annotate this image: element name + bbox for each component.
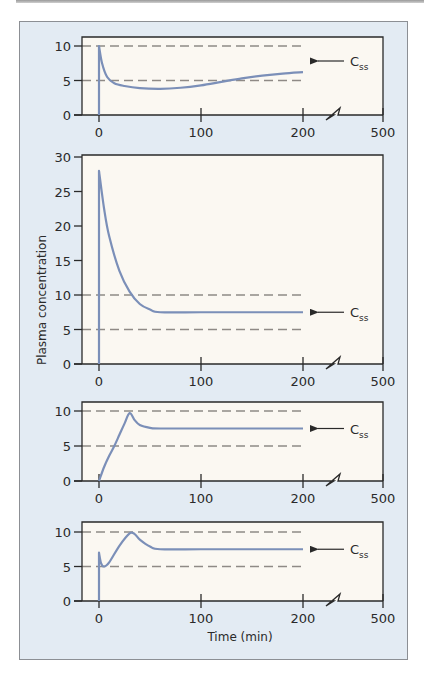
plot-area: [82, 37, 383, 115]
y-tick-label: 0: [63, 357, 71, 372]
x-tick-label: 100: [189, 491, 214, 506]
y-tick-label: 5: [63, 560, 71, 575]
y-tick-label: 0: [63, 594, 71, 609]
y-tick-label: 15: [54, 254, 71, 269]
x-tick-label: 100: [189, 125, 214, 140]
x-tick-label: 500: [371, 374, 396, 389]
y-tick-label: 5: [63, 74, 71, 89]
y-tick-label: 10: [54, 525, 71, 540]
x-axis-label: Time (min): [206, 630, 272, 644]
x-tick-label: 0: [95, 374, 103, 389]
y-tick-label: 25: [54, 185, 71, 200]
chart-panel-4: 05100100200500Css: [54, 522, 395, 626]
y-axis-label: Plasma concentration: [35, 235, 49, 365]
x-tick-label: 500: [371, 125, 396, 140]
chart-panel-1: 05100100200500Css: [54, 37, 395, 140]
y-tick-label: 5: [63, 439, 71, 454]
plot-area: [82, 402, 383, 481]
x-tick-label: 500: [371, 611, 396, 626]
x-tick-label: 200: [291, 611, 316, 626]
plot-area: [82, 522, 383, 601]
x-tick-label: 100: [189, 611, 214, 626]
x-tick-label: 0: [95, 491, 103, 506]
chart-panel-2: 0510152025300100200500Css: [54, 150, 395, 389]
plot-area: [82, 155, 383, 364]
y-tick-label: 10: [54, 39, 71, 54]
y-tick-label: 0: [63, 474, 71, 489]
y-tick-label: 10: [54, 288, 71, 303]
x-tick-label: 0: [95, 611, 103, 626]
chart-panel-3: 05100100200500Css: [54, 402, 395, 506]
y-tick-label: 10: [54, 404, 71, 419]
x-tick-label: 200: [291, 374, 316, 389]
figure-svg: 05100100200500Css0510152025300100200500C…: [0, 0, 424, 680]
y-tick-label: 20: [54, 219, 71, 234]
y-tick-label: 30: [54, 150, 71, 165]
x-tick-label: 0: [95, 125, 103, 140]
x-tick-label: 100: [189, 374, 214, 389]
x-tick-label: 200: [291, 491, 316, 506]
y-tick-label: 0: [63, 108, 71, 123]
x-tick-label: 200: [291, 125, 316, 140]
x-tick-label: 500: [371, 491, 396, 506]
y-tick-label: 5: [63, 323, 71, 338]
